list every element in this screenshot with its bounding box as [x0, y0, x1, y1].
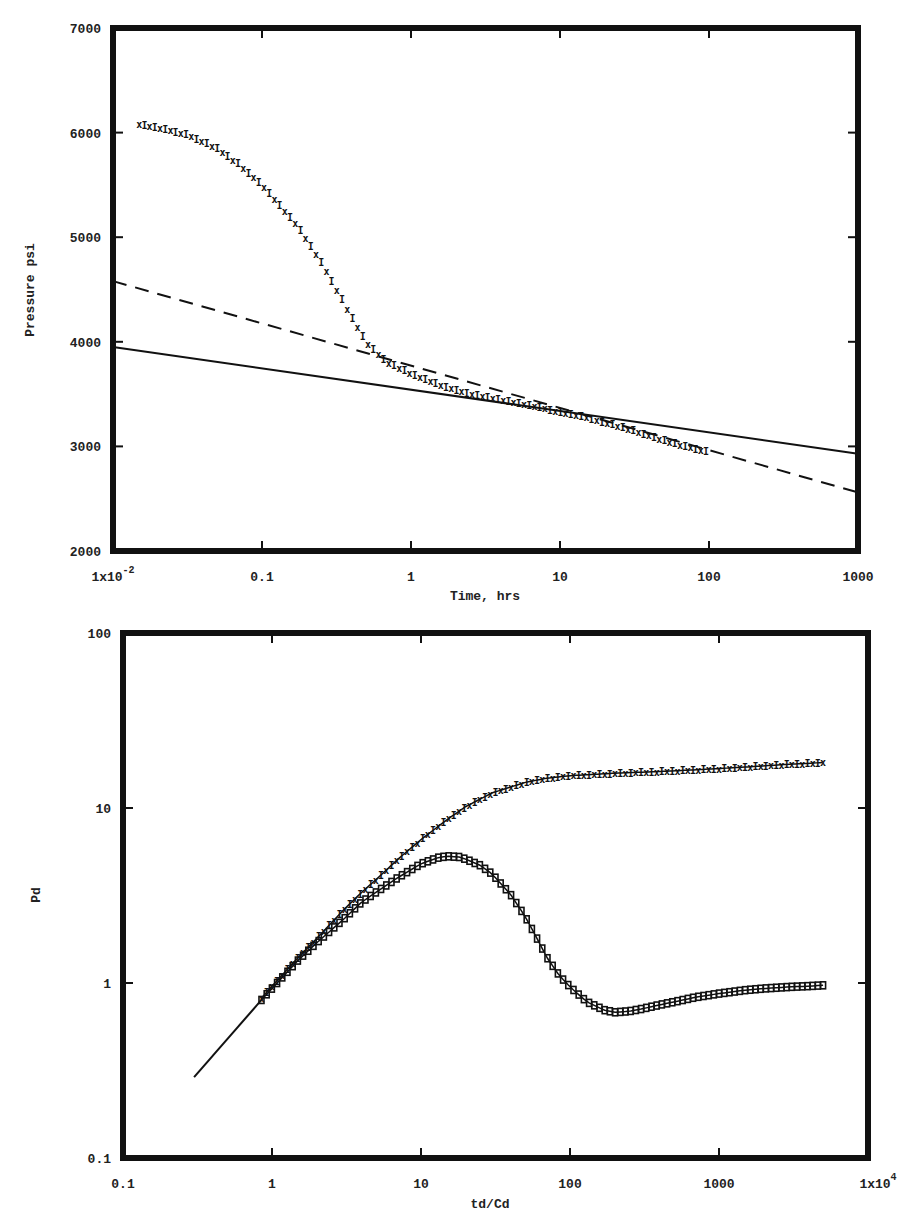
tick-label: 5000 [70, 231, 101, 246]
tick-label: 10 [552, 570, 568, 585]
x-axis-title-top: Time, hrs [450, 589, 520, 604]
tick-label: 3000 [70, 440, 101, 455]
tick-label: 1 [103, 977, 111, 992]
tick-label: 1000 [703, 1177, 734, 1192]
plot-area-top: xIxIxIxIxIxIxIxIxIxIxIxIxIxIxIxIxIxIxIxI… [113, 119, 858, 492]
tick-label: 1 [407, 570, 415, 585]
y-ticks-top: 200030004000500060007000 [70, 22, 858, 560]
solid-trend-line [113, 347, 858, 454]
tick-label: 0.1 [88, 1152, 112, 1167]
tick-label: 10 [413, 1177, 429, 1192]
tick-label: 1 [268, 1177, 276, 1192]
tick-label: 6000 [70, 127, 101, 142]
tick-label: 7000 [70, 22, 101, 37]
tick-label: 100 [88, 627, 112, 642]
tick-label: 1x104 [859, 1172, 896, 1192]
tick-label: 1000 [842, 570, 873, 585]
dashed-trend-line [113, 281, 858, 492]
tick-label: 2000 [70, 545, 101, 560]
svg-text:I: I [703, 446, 709, 457]
solid-trend-line [194, 1000, 261, 1077]
tick-label: 1x10-2 [91, 565, 134, 585]
tick-label: 100 [558, 1177, 582, 1192]
tick-label: 100 [697, 570, 721, 585]
tick-label: 4000 [70, 336, 101, 351]
x-marker-series: xIxIxIxIxIxIxIxIxIxIxIxIxIxIxIxIxIxIxIxI… [136, 119, 709, 457]
tick-label: 10 [95, 802, 111, 817]
y-axis-title-bottom: Pd [29, 887, 44, 903]
square-marker-series [259, 853, 826, 1016]
tick-label: 0.1 [111, 1177, 135, 1192]
plot-frame-bottom [123, 633, 868, 1158]
x-ticks-top: 1x10-20.11101001000 [91, 28, 873, 585]
y-ticks-bottom: 0.1110100 [88, 627, 868, 1167]
model-curve [261, 763, 822, 999]
tick-label: 0.1 [250, 570, 274, 585]
x-axis-title-bottom: td/Cd [470, 1197, 509, 1212]
type-curve-chart: xIxIxIxIxIxIxIxIxIxIxIxIxIxIxIxIxIxIxIxI… [29, 627, 897, 1212]
plot-frame-top [113, 28, 858, 551]
pressure-vs-time-chart: xIxIxIxIxIxIxIxIxIxIxIxIxIxIxIxIxIxIxIxI… [23, 22, 874, 604]
plot-area-bottom: xIxIxIxIxIxIxIxIxIxIxIxIxIxIxIxIxIxIxIxI… [194, 757, 826, 1077]
x-ticks-bottom: 0.111010010001x104 [111, 633, 896, 1192]
y-axis-title-top: Pressure psi [23, 243, 38, 337]
x-marker-series: xIxIxIxIxIxIxIxIxIxIxIxIxIxIxIxIxIxIxIxI… [258, 757, 826, 1004]
